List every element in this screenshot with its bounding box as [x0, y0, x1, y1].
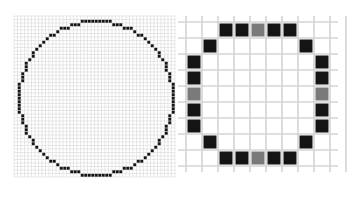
black-pixel — [236, 152, 249, 165]
black-pixel — [300, 40, 313, 53]
black-pixel — [188, 72, 201, 85]
black-pixel — [284, 24, 297, 37]
black-pixel — [220, 152, 233, 165]
gray-pixel — [316, 88, 329, 101]
black-pixel — [284, 152, 297, 165]
coarse-pixel-grid — [0, 0, 356, 201]
black-pixel — [236, 24, 249, 37]
black-pixel — [188, 120, 201, 133]
black-pixel — [204, 136, 217, 149]
black-pixel — [188, 104, 201, 117]
black-pixel — [316, 120, 329, 133]
coarse-grid-circle-panel — [0, 0, 356, 201]
black-pixel — [204, 40, 217, 53]
black-pixel — [220, 24, 233, 37]
gray-pixel — [252, 24, 265, 37]
black-pixel — [300, 136, 313, 149]
black-pixel — [316, 56, 329, 69]
black-pixel — [188, 56, 201, 69]
black-pixel — [268, 152, 281, 165]
black-pixel — [268, 24, 281, 37]
circle-pixels — [188, 24, 329, 165]
black-pixel — [316, 72, 329, 85]
black-pixel — [316, 104, 329, 117]
gray-pixel — [252, 152, 265, 165]
gray-pixel — [188, 88, 201, 101]
